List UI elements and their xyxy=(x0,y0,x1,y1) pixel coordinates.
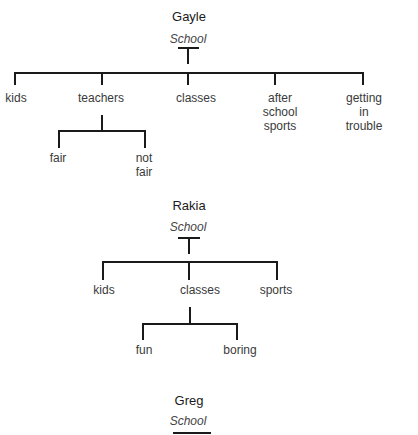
node-fun: fun xyxy=(109,343,179,357)
branch-drop-sports xyxy=(276,261,278,280)
branch-drop-kids xyxy=(102,261,104,280)
node-text-line: getting xyxy=(329,91,399,105)
classes-branch-bar xyxy=(142,323,238,325)
node-teachers: teachers xyxy=(66,91,136,105)
node-boring: boring xyxy=(205,343,275,357)
branch-drop-fair xyxy=(58,130,60,148)
node-not-fair: not fair xyxy=(109,151,179,179)
person-name-greg: Greg xyxy=(149,393,229,408)
person-name-gayle: Gayle xyxy=(149,9,229,24)
branch-drop-classes xyxy=(188,261,190,280)
root-node-school: School xyxy=(148,414,228,428)
branch-bar xyxy=(14,72,364,74)
node-classes: classes xyxy=(161,91,231,105)
branch-drop-not-fair xyxy=(144,130,146,148)
node-text-line: school xyxy=(245,105,315,119)
branch-drop-kids xyxy=(14,72,16,85)
node-text-line: in xyxy=(329,105,399,119)
branch-drop-boring xyxy=(236,323,238,340)
node-text-line: trouble xyxy=(329,119,399,133)
node-text-line: sports xyxy=(245,119,315,133)
root-node-school: School xyxy=(148,220,228,234)
node-sports: sports xyxy=(241,283,311,297)
branch-bar xyxy=(102,261,278,263)
root-stem xyxy=(188,237,190,254)
classes-stem xyxy=(189,307,191,324)
branch-drop-classes xyxy=(187,72,189,85)
node-kids: kids xyxy=(69,283,139,297)
node-fair: fair xyxy=(23,151,93,165)
branch-drop-getting-in-trouble xyxy=(362,72,364,85)
node-text-line: fair xyxy=(109,165,179,179)
node-text-line: not xyxy=(109,151,179,165)
root-underline xyxy=(173,432,211,434)
branch-drop-fun xyxy=(142,323,144,340)
root-stem xyxy=(187,47,189,64)
node-kids: kids xyxy=(0,91,51,105)
node-classes: classes xyxy=(165,283,235,297)
node-getting-in-trouble: getting in trouble xyxy=(329,91,399,133)
person-name-rakia: Rakia xyxy=(149,198,229,213)
branch-drop-after-school-sports xyxy=(274,72,276,85)
root-node-school: School xyxy=(148,32,228,46)
node-after-school-sports: after school sports xyxy=(245,91,315,133)
node-text-line: after xyxy=(245,91,315,105)
branch-drop-teachers xyxy=(101,72,103,85)
teachers-branch-bar xyxy=(58,130,146,132)
